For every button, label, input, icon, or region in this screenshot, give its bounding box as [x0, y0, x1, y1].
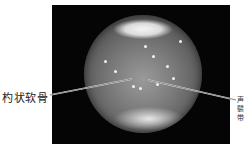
endoscope-image-frame: [52, 5, 230, 144]
laryngoscope-view: [84, 15, 202, 133]
highlight-spot: [156, 83, 159, 86]
vocal-fold-label-partial: 声 襞 带: [237, 96, 244, 123]
highlight-spot: [144, 45, 147, 48]
highlight-spot: [152, 55, 155, 58]
highlight-spot: [104, 60, 107, 63]
arytenoid-cartilage-label: 杓状软骨: [2, 89, 48, 105]
highlight-spot: [132, 85, 135, 88]
highlight-spot: [179, 40, 182, 43]
highlight-spot: [172, 77, 175, 80]
highlight-spot: [139, 87, 142, 90]
highlight-spot: [114, 70, 117, 73]
highlight-spot: [166, 65, 169, 68]
